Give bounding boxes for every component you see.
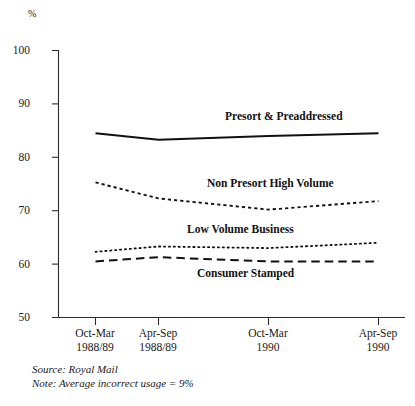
series-label-presort-preaddressed: Presort & Preaddressed: [225, 110, 343, 123]
x-tick-marks: [96, 318, 379, 326]
series-line-consumer-stamped: [96, 257, 379, 261]
series-label-low-volume-business: Low Volume Business: [187, 223, 294, 236]
series-group: [96, 133, 379, 261]
x-tick-label-2-line1: Oct-Mar: [248, 327, 288, 339]
chart-figure: % 100 90 80 70 60 50 Presort & Prea: [0, 0, 415, 406]
series-line-low-volume-business: [96, 243, 379, 252]
x-tick-label-1-line1: Apr-Sep: [139, 327, 178, 339]
series-line-presort-preaddressed: [96, 133, 379, 139]
x-tick-label-3: Apr-Sep 1990: [332, 327, 415, 354]
x-tick-label-2-line2: 1990: [222, 341, 314, 355]
x-tick-label-3-line2: 1990: [332, 341, 415, 355]
series-label-consumer-stamped: Consumer Stamped: [197, 267, 294, 280]
source-note: Source: Royal Mail: [32, 362, 118, 376]
x-tick-label-0-line1: Oct-Mar: [75, 327, 115, 339]
x-tick-label-3-line1: Apr-Sep: [359, 327, 398, 339]
average-usage-note: Note: Average incorrect usage = 9%: [32, 376, 194, 390]
x-tick-label-1-line2: 1988/89: [112, 341, 204, 355]
x-tick-label-2: Oct-Mar 1990: [222, 327, 314, 354]
y-tick-marks: [52, 51, 59, 318]
series-label-non-presort-high-volume: Non Presort High Volume: [207, 177, 334, 190]
x-tick-label-1: Apr-Sep 1988/89: [112, 327, 204, 354]
